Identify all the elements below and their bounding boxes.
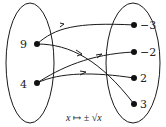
domain-label-4: 4 — [20, 78, 27, 91]
codomain-label-neg2: −2 — [140, 46, 156, 59]
arrow-9-to-neg3 — [37, 24, 135, 44]
codomain-label-2: 2 — [140, 72, 147, 85]
domain-label-9: 9 — [20, 38, 27, 51]
codomain-point-neg3 — [131, 22, 137, 28]
arrow-4-to-2 — [37, 74, 134, 83]
arrow-4-to-neg2 — [37, 52, 134, 83]
mapping-diagram: 9 4 −3 −2 2 3 x ↦ ± √x — [0, 0, 166, 127]
domain-set-ellipse — [6, 3, 54, 123]
domain-point-4 — [34, 80, 40, 86]
domain-point-9 — [34, 41, 40, 47]
mapping-caption: x ↦ ± √x — [65, 112, 102, 123]
codomain-point-3 — [131, 101, 137, 107]
codomain-point-2 — [131, 75, 137, 81]
codomain-label-neg3: −3 — [140, 19, 156, 32]
codomain-point-neg2 — [131, 49, 137, 55]
codomain-label-3: 3 — [140, 98, 147, 111]
